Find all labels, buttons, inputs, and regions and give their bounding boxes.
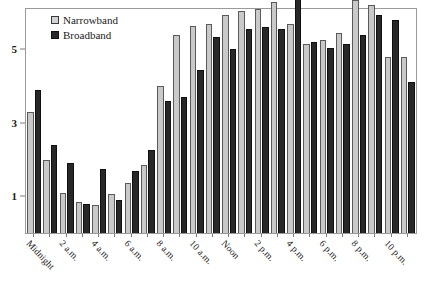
bar-narrowband bbox=[27, 112, 34, 233]
bar-narrowband bbox=[238, 11, 245, 233]
x-tick-mark bbox=[163, 234, 164, 237]
bar-broadband bbox=[132, 171, 139, 233]
x-tick-mark bbox=[49, 234, 50, 237]
legend-swatch-broadband-icon bbox=[51, 31, 59, 39]
bars-layer bbox=[26, 9, 416, 233]
bar-narrowband bbox=[60, 193, 67, 233]
bar-broadband bbox=[35, 90, 42, 233]
bar-narrowband bbox=[255, 9, 262, 233]
bar-broadband bbox=[376, 15, 383, 233]
bar-broadband bbox=[165, 101, 172, 233]
x-tick-mark bbox=[374, 234, 375, 237]
plot-area bbox=[25, 8, 417, 234]
bar-narrowband bbox=[92, 205, 99, 233]
bar-narrowband bbox=[108, 194, 115, 233]
bar-narrowband bbox=[320, 40, 327, 233]
x-tick-label: Midnight bbox=[24, 239, 56, 272]
bar-broadband bbox=[148, 150, 155, 233]
bar-narrowband bbox=[190, 26, 197, 233]
legend-item-broadband: Broadband bbox=[51, 29, 118, 41]
x-tick-label: 8 a.m. bbox=[154, 239, 177, 263]
x-tick-mark bbox=[277, 234, 278, 237]
x-tick-mark bbox=[391, 234, 392, 237]
y-tick-label: 3 bbox=[12, 117, 18, 128]
bar-broadband bbox=[197, 70, 204, 233]
bar-broadband bbox=[181, 97, 188, 233]
x-tick-label: 4 p.m. bbox=[284, 239, 308, 263]
x-tick-mark bbox=[179, 234, 180, 237]
x-axis: Midnight2 a.m.4 a.m.6 a.m.8 a.m.10 a.m.N… bbox=[25, 234, 417, 290]
bar-broadband bbox=[213, 37, 220, 233]
x-tick-mark bbox=[98, 234, 99, 237]
x-tick-mark bbox=[228, 234, 229, 237]
bar-broadband bbox=[246, 29, 253, 233]
bar-broadband bbox=[343, 44, 350, 233]
x-tick-mark bbox=[309, 234, 310, 237]
x-tick-mark bbox=[342, 234, 343, 237]
x-tick-mark bbox=[407, 234, 408, 237]
x-tick-label: 8 p.m. bbox=[349, 239, 373, 263]
bar-narrowband bbox=[206, 24, 213, 233]
x-tick-label: 10 a.m. bbox=[187, 239, 214, 267]
bar-narrowband bbox=[125, 183, 132, 233]
bar-narrowband bbox=[157, 86, 164, 233]
x-tick-label: 6 a.m. bbox=[122, 239, 145, 263]
bar-narrowband bbox=[401, 57, 408, 233]
x-tick-mark bbox=[147, 234, 148, 237]
chart-legend: Narrowband Broadband bbox=[51, 14, 118, 41]
y-tick-label: 1 bbox=[12, 191, 18, 202]
legend-label-broadband: Broadband bbox=[63, 30, 111, 41]
bar-narrowband bbox=[222, 15, 229, 233]
x-tick-mark bbox=[244, 234, 245, 237]
bar-narrowband bbox=[43, 160, 50, 233]
bar-broadband bbox=[230, 49, 237, 233]
bar-narrowband bbox=[385, 57, 392, 233]
bar-broadband bbox=[83, 204, 90, 233]
bar-broadband bbox=[100, 169, 107, 233]
y-tick-label: 5 bbox=[12, 44, 18, 55]
x-tick-mark bbox=[114, 234, 115, 237]
bar-narrowband bbox=[336, 33, 343, 233]
bar-broadband bbox=[327, 48, 334, 233]
bar-broadband bbox=[116, 200, 123, 233]
bar-narrowband bbox=[368, 5, 375, 233]
bar-broadband bbox=[295, 0, 302, 233]
x-tick-mark bbox=[293, 234, 294, 237]
x-tick-mark bbox=[82, 234, 83, 237]
bar-broadband bbox=[392, 20, 399, 233]
legend-item-narrowband: Narrowband bbox=[51, 14, 118, 26]
x-tick-mark bbox=[196, 234, 197, 237]
x-tick-label: 6 p.m. bbox=[317, 239, 341, 263]
x-tick-label: 2 p.m. bbox=[252, 239, 276, 263]
legend-label-narrowband: Narrowband bbox=[63, 15, 118, 26]
bar-broadband bbox=[408, 82, 415, 233]
bar-broadband bbox=[278, 29, 285, 233]
bar-narrowband bbox=[271, 2, 278, 233]
bar-narrowband bbox=[352, 0, 359, 233]
x-tick-mark bbox=[131, 234, 132, 237]
x-tick-mark bbox=[33, 234, 34, 237]
x-tick-mark bbox=[66, 234, 67, 237]
bar-narrowband bbox=[76, 202, 83, 233]
x-tick-label: 10 p.m. bbox=[382, 239, 409, 267]
bar-broadband bbox=[311, 42, 318, 233]
bar-broadband bbox=[262, 27, 269, 233]
bar-broadband bbox=[51, 145, 58, 233]
bar-narrowband bbox=[287, 24, 294, 233]
x-tick-mark bbox=[326, 234, 327, 237]
bar-narrowband bbox=[303, 44, 310, 233]
x-tick-label: 2 a.m. bbox=[57, 239, 80, 263]
bar-narrowband bbox=[141, 165, 148, 233]
bar-broadband bbox=[67, 163, 74, 233]
x-tick-mark bbox=[358, 234, 359, 237]
x-tick-mark bbox=[212, 234, 213, 237]
x-tick-mark bbox=[261, 234, 262, 237]
y-axis: 135 bbox=[0, 0, 25, 242]
legend-swatch-narrowband-icon bbox=[51, 16, 59, 24]
x-tick-label: 4 a.m. bbox=[89, 239, 112, 263]
x-tick-label: Noon bbox=[219, 239, 241, 261]
bar-narrowband bbox=[173, 35, 180, 233]
bar-chart: 135 Midnight2 a.m.4 a.m.6 a.m.8 a.m.10 a… bbox=[0, 0, 425, 290]
bar-broadband bbox=[360, 35, 367, 233]
